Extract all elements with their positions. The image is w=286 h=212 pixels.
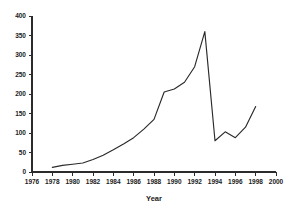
- y-axis: 050100150200250300350400: [15, 12, 32, 175]
- x-tick-label: 1980: [65, 178, 80, 185]
- line-chart: 050100150200250300350400 197619781980198…: [0, 0, 286, 212]
- y-tick-label: 300: [15, 51, 26, 58]
- y-tick-label: 50: [19, 149, 27, 156]
- x-tick-label: 1976: [25, 178, 40, 185]
- x-tick-label: 1992: [187, 178, 202, 185]
- x-tick-label: 1988: [147, 178, 162, 185]
- data-series-line: [52, 32, 255, 168]
- y-tick-label: 150: [15, 110, 26, 117]
- y-axis-tick-labels: 050100150200250300350400: [15, 12, 26, 175]
- x-tick-label: 1994: [208, 178, 223, 185]
- x-tick-label: 1986: [126, 178, 141, 185]
- x-tick-label: 1990: [167, 178, 182, 185]
- x-axis-title: Year: [146, 194, 162, 203]
- y-tick-label: 250: [15, 71, 26, 78]
- y-tick-label: 0: [22, 168, 26, 175]
- x-tick-label: 1978: [45, 178, 60, 185]
- y-tick-label: 200: [15, 90, 26, 97]
- x-axis: 1976197819801982198419861988199019921994…: [25, 172, 284, 185]
- x-axis-tick-labels: 1976197819801982198419861988199019921994…: [25, 178, 284, 185]
- chart-figure: 050100150200250300350400 197619781980198…: [0, 0, 286, 212]
- x-tick-label: 1984: [106, 178, 121, 185]
- x-tick-label: 1998: [248, 178, 263, 185]
- y-tick-label: 100: [15, 129, 26, 136]
- y-tick-label: 400: [15, 12, 26, 19]
- x-tick-label: 2000: [269, 178, 284, 185]
- x-tick-label: 1982: [86, 178, 101, 185]
- x-tick-label: 1996: [228, 178, 243, 185]
- y-tick-label: 350: [15, 32, 26, 39]
